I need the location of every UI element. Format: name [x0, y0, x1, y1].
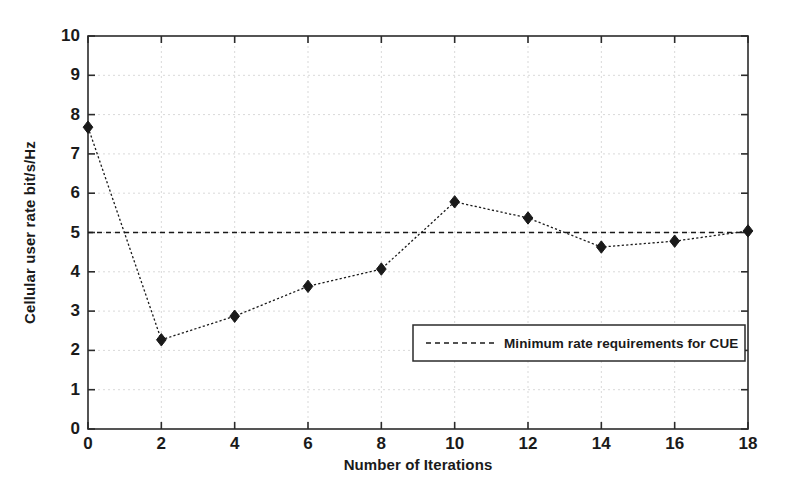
data-point-marker [157, 334, 167, 346]
series-line-0 [88, 127, 748, 340]
data-point-marker [83, 121, 93, 133]
legend-entry-label: Minimum rate requirements for CUE [504, 336, 738, 351]
data-point-marker [303, 280, 313, 292]
data-point-marker [670, 235, 680, 247]
data-point-marker [377, 263, 387, 275]
chart-figure: Cellular user rate bit/s/Hz Number of It… [0, 0, 791, 497]
data-point-marker [450, 196, 460, 208]
data-point-marker [523, 212, 533, 224]
data-point-marker [743, 225, 753, 237]
data-series-layer [83, 121, 753, 346]
plot-area [0, 0, 791, 497]
data-point-marker [230, 310, 240, 322]
data-point-marker [597, 241, 607, 253]
